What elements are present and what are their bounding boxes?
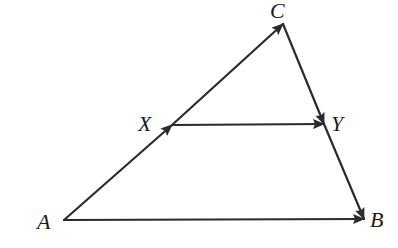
point-label-x: X	[138, 113, 151, 135]
vertex-label-a: A	[37, 211, 50, 233]
vector-cy	[283, 24, 324, 124]
vertex-label-b: B	[370, 209, 383, 231]
point-label-y: Y	[331, 113, 343, 135]
vector-ab	[64, 219, 364, 220]
vector-yb	[324, 124, 364, 219]
vertex-label-c: C	[270, 0, 285, 22]
vector-group	[64, 24, 364, 220]
vector-xy	[172, 124, 324, 125]
vector-xc	[172, 24, 283, 125]
vector-ax	[64, 125, 172, 220]
